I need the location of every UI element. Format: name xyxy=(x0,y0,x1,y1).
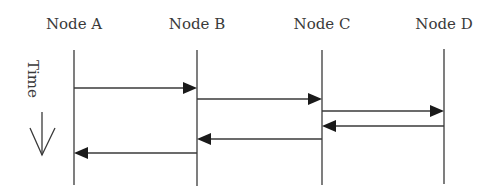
arrowhead-left-icon xyxy=(197,133,211,145)
arrowhead-right-icon xyxy=(430,105,444,117)
arrowhead-left-icon xyxy=(322,120,336,132)
arrowhead-right-icon xyxy=(308,93,322,105)
arrowhead-right-icon xyxy=(183,82,197,94)
time-arrow-down-icon xyxy=(30,112,55,155)
arrowhead-left-icon xyxy=(74,147,88,159)
sequence-diagram-canvas xyxy=(0,0,501,193)
